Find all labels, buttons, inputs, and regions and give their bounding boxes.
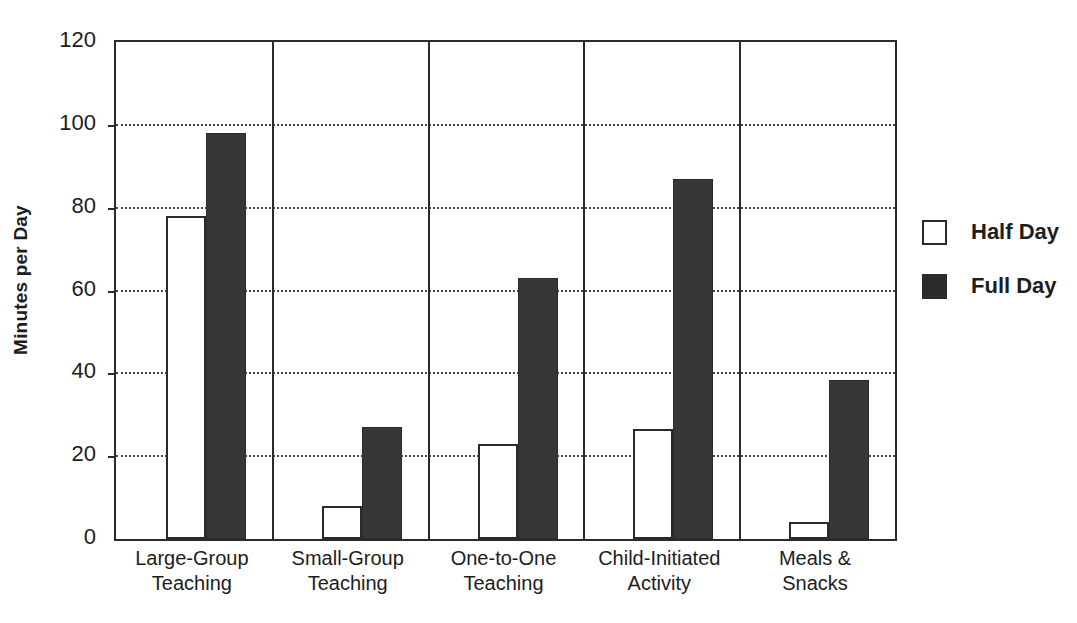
x-tick-label-line: Small-Group <box>258 546 438 571</box>
y-tick-label: 40 <box>72 360 96 382</box>
bar-full-day <box>673 179 713 539</box>
x-axis-tick-labels: Large-GroupTeachingSmall-GroupTeachingOn… <box>114 546 893 616</box>
x-tick-label: Meals &Snacks <box>725 546 905 596</box>
bar-half-day <box>789 522 829 539</box>
category-separator <box>272 42 274 539</box>
legend-label: Half Day <box>971 219 1059 245</box>
bars-layer <box>116 42 895 539</box>
category-separator <box>739 42 741 539</box>
legend-item-full-day[interactable]: Full Day <box>922 259 1072 313</box>
y-axis-tickmark <box>108 373 116 375</box>
x-tick-label-line: Activity <box>569 571 749 596</box>
y-tick-label: 120 <box>59 29 96 51</box>
bar-half-day <box>478 444 518 539</box>
y-axis-tickmark <box>108 125 116 127</box>
x-tick-label-line: Meals & <box>725 546 905 571</box>
x-tick-label-line: Teaching <box>258 571 438 596</box>
x-tick-label: One-to-OneTeaching <box>414 546 594 596</box>
plot-area <box>114 40 897 541</box>
bar-full-day <box>206 133 246 539</box>
bar-full-day <box>518 278 558 539</box>
x-tick-label-line: Teaching <box>414 571 594 596</box>
y-axis-tickmark <box>108 291 116 293</box>
y-tick-label: 100 <box>59 112 96 134</box>
legend-item-half-day[interactable]: Half Day <box>922 205 1072 259</box>
category-separator <box>428 42 430 539</box>
category-separator <box>583 42 585 539</box>
bar-half-day <box>166 216 206 539</box>
bar-full-day <box>362 427 402 539</box>
x-tick-label-line: Teaching <box>102 571 282 596</box>
bar-group <box>583 42 739 539</box>
y-axis-tickmark <box>108 456 116 458</box>
x-tick-label: Small-GroupTeaching <box>258 546 438 596</box>
bar-chart: Minutes per Day 020406080100120 Large-Gr… <box>0 0 1077 623</box>
bar-full-day <box>829 380 869 539</box>
y-tick-label: 20 <box>72 443 96 465</box>
x-tick-label-line: One-to-One <box>414 546 594 571</box>
y-tick-label: 0 <box>84 526 96 548</box>
bar-half-day <box>322 506 362 539</box>
x-tick-label: Child-InitiatedActivity <box>569 546 749 596</box>
chart-legend: Half DayFull Day <box>922 205 1072 313</box>
y-axis-tickmark <box>108 208 116 210</box>
legend-label: Full Day <box>971 273 1057 299</box>
y-axis-tick-labels: 020406080100120 <box>44 40 106 537</box>
bar-group <box>272 42 428 539</box>
y-tick-label: 80 <box>72 195 96 217</box>
bar-group <box>116 42 272 539</box>
legend-swatch-icon <box>922 220 947 245</box>
bar-group <box>739 42 895 539</box>
x-tick-label: Large-GroupTeaching <box>102 546 282 596</box>
x-tick-label-line: Snacks <box>725 571 905 596</box>
y-tick-label: 60 <box>72 278 96 300</box>
legend-swatch-icon <box>922 274 947 299</box>
x-tick-label-line: Child-Initiated <box>569 546 749 571</box>
bar-group <box>428 42 584 539</box>
x-tick-label-line: Large-Group <box>102 546 282 571</box>
y-axis-title-text: Minutes per Day <box>10 205 32 355</box>
bar-half-day <box>633 429 673 539</box>
y-axis-title: Minutes per Day <box>0 0 42 560</box>
